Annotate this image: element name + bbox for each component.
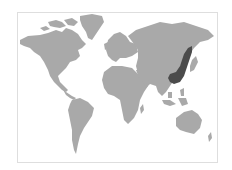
japan xyxy=(190,56,198,72)
world-map xyxy=(0,0,232,170)
arctic-islands xyxy=(40,18,78,31)
new-zealand xyxy=(208,132,212,142)
madagascar xyxy=(140,104,144,114)
australia xyxy=(176,110,202,134)
south-america xyxy=(68,98,94,154)
north-america xyxy=(20,28,86,92)
greenland xyxy=(80,14,104,40)
